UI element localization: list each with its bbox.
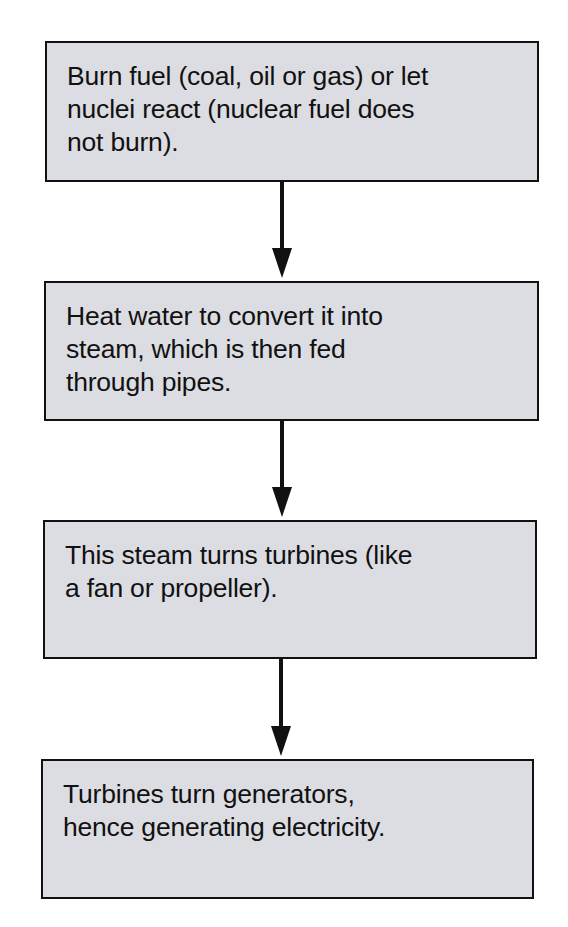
- arrow-shaft: [280, 182, 284, 254]
- step-3-line-2: a fan or propeller).: [65, 572, 525, 605]
- step-4-line-2: hence generating electricity.: [63, 811, 522, 844]
- step-1-line-2: nuclei react (nuclear fuel does: [67, 93, 527, 126]
- flow-step-4-generators: Turbines turn generators, hence generati…: [41, 759, 534, 899]
- step-1-line-1: Burn fuel (coal, oil or gas) or let: [67, 60, 527, 93]
- arrow-shaft: [279, 659, 283, 732]
- step-2-line-1: Heat water to convert it into: [66, 300, 527, 333]
- flow-step-1-burn-fuel: Burn fuel (coal, oil or gas) or let nucl…: [45, 41, 539, 182]
- arrow-head: [272, 248, 292, 278]
- step-1-line-3: not burn).: [67, 126, 527, 159]
- flow-step-2-heat-water: Heat water to convert it into steam, whi…: [44, 281, 539, 421]
- arrow-head: [272, 487, 292, 517]
- step-2-line-3: through pipes.: [66, 366, 527, 399]
- arrow-down-icon: [267, 182, 297, 280]
- step-4-line-1: Turbines turn generators,: [63, 778, 522, 811]
- arrow-down-icon: [267, 421, 297, 519]
- flow-step-3-steam-turbines: This steam turns turbines (like a fan or…: [43, 520, 537, 659]
- arrow-shaft: [280, 421, 284, 493]
- step-2-line-2: steam, which is then fed: [66, 333, 527, 366]
- arrow-head: [271, 726, 291, 756]
- step-3-line-1: This steam turns turbines (like: [65, 539, 525, 572]
- arrow-down-icon: [266, 659, 296, 758]
